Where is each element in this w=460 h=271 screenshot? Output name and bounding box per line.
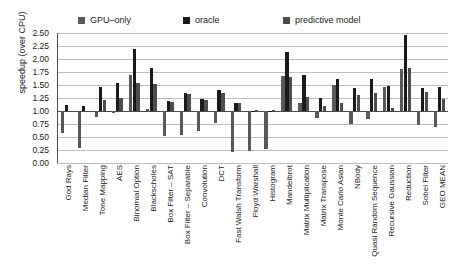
bar — [112, 111, 115, 113]
y-tick-label: 2.25 — [32, 42, 49, 51]
x-tick-label: Binomial Option — [133, 165, 141, 221]
bar — [298, 103, 301, 111]
bar — [434, 111, 437, 127]
bar — [103, 100, 106, 111]
bar — [281, 76, 284, 111]
bar-group — [431, 33, 448, 163]
bar-group — [397, 33, 414, 163]
bar — [150, 68, 153, 111]
bar — [315, 111, 318, 118]
x-tick-label-wrap: Blackscholes — [142, 165, 159, 269]
bar — [136, 83, 139, 111]
y-tick-label: 0.25 — [32, 146, 49, 155]
bar — [116, 83, 119, 111]
bar — [374, 93, 377, 111]
bar — [200, 99, 203, 111]
x-tick-label: Monte Carlo Asian — [337, 165, 345, 230]
legend-item-0[interactable]: GPU–only — [78, 16, 183, 25]
bar-group — [228, 33, 245, 163]
bar — [82, 106, 85, 111]
bar — [357, 95, 360, 111]
y-axis-tick-labels: 0.000.250.500.751.001.251.501.752.002.25… — [0, 33, 52, 163]
bar-group — [58, 33, 75, 163]
x-tick-label-wrap: Quasi Random Sequence — [362, 165, 379, 269]
bar — [391, 108, 394, 111]
bar — [332, 85, 335, 111]
x-tick-label-wrap: Tone Mapping — [91, 165, 108, 269]
bar — [133, 49, 136, 111]
y-tick-label: 2.50 — [32, 29, 49, 38]
x-tick-label-wrap: Box Filter – Separable — [176, 165, 193, 269]
legend-item-2[interactable]: predictive model — [283, 16, 361, 25]
x-tick-label: Histogram — [269, 165, 277, 201]
x-tick-label-wrap: Reduction — [396, 165, 413, 269]
plot-area — [57, 33, 448, 163]
x-tick-label-wrap: Sobel Filter — [413, 165, 430, 269]
x-tick-label: GEO MEAN — [439, 165, 447, 208]
bar — [340, 103, 343, 111]
legend-swatch-icon — [78, 17, 85, 24]
x-tick-label-wrap: Binomial Option — [125, 165, 142, 269]
x-tick-label: God Rays — [65, 165, 73, 201]
x-tick-label-wrap: NBody — [345, 165, 362, 269]
bar-group — [75, 33, 92, 163]
bar-group — [380, 33, 397, 163]
x-axis-tick-labels: God RaysMedian FilterTone MappingAESBino… — [57, 165, 448, 271]
bar — [306, 97, 309, 111]
bar — [231, 111, 234, 152]
bar — [146, 109, 149, 111]
bar — [187, 94, 190, 111]
x-tick-label: Floyd Warshall — [252, 165, 260, 218]
bar — [197, 111, 200, 131]
bar — [184, 93, 187, 111]
x-tick-label: DCT — [218, 165, 226, 181]
x-tick-label: AES — [116, 165, 124, 181]
bar — [425, 92, 428, 111]
x-tick-label: Quasi Random Sequence — [371, 165, 379, 257]
chart-legend: GPU–onlyoraclepredictive model — [78, 12, 378, 28]
bar — [214, 111, 217, 123]
x-tick-label-wrap: Matrix Transpose — [311, 165, 328, 269]
y-tick-label: 1.75 — [32, 68, 49, 77]
bar-group — [126, 33, 143, 163]
bar — [221, 93, 224, 111]
bar — [61, 111, 64, 133]
x-tick-label: Blackscholes — [150, 165, 158, 212]
bar — [95, 111, 98, 117]
bar-group — [295, 33, 312, 163]
bar — [99, 87, 102, 111]
bar — [119, 98, 122, 111]
bar — [264, 111, 267, 149]
x-tick-label: Matrix Transpose — [320, 165, 328, 226]
bar-group — [278, 33, 295, 163]
bar-group — [312, 33, 329, 163]
bar-group — [92, 33, 109, 163]
x-tick-label-wrap: Box Filter – SAT — [159, 165, 176, 269]
legend-item-1[interactable]: oracle — [183, 16, 283, 25]
x-tick-label: Matrix Multiplication — [303, 165, 311, 235]
bar — [366, 111, 369, 119]
x-tick-label: Box Filter – Separable — [184, 165, 192, 244]
bar — [421, 88, 424, 111]
x-tick-label: NBody — [354, 165, 362, 189]
bar — [251, 111, 254, 112]
legend-label: predictive model — [295, 16, 361, 25]
bar — [387, 86, 390, 111]
bar — [285, 52, 288, 111]
x-tick-label: Convolution — [201, 165, 209, 207]
bar — [153, 84, 156, 111]
x-tick-label: Box Filter – SAT — [167, 165, 175, 223]
x-tick-label-wrap: Floyd Warshall — [244, 165, 261, 269]
x-tick-label: Sobel Filter — [422, 165, 430, 205]
x-tick-label: Median Filter — [82, 165, 90, 211]
bar — [272, 110, 275, 111]
bar-group — [414, 33, 431, 163]
bar — [289, 77, 292, 111]
y-tick-label: 0.50 — [32, 133, 49, 142]
bar — [349, 111, 352, 124]
x-tick-label-wrap: GEO MEAN — [430, 165, 447, 269]
bar — [163, 111, 166, 136]
x-tick-label: Tone Mapping — [99, 165, 107, 215]
bar — [417, 111, 420, 125]
y-tick-label: 1.50 — [32, 81, 49, 90]
